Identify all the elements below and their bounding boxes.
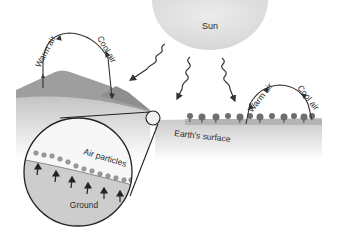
cool-air-left-label: Cool air	[95, 34, 118, 65]
right-landscape	[155, 118, 322, 160]
warm-air-left-label: Warm air	[33, 34, 58, 69]
ground-label: Ground	[70, 200, 99, 210]
sun-label: Sun	[202, 21, 218, 31]
warm-air-right-label: Warm air	[246, 81, 275, 114]
sun-rays	[132, 44, 234, 99]
cool-air-right-label: Cool air	[295, 83, 321, 112]
convection-diagram: Sun Warm air Cool air Earth's surface	[0, 0, 337, 235]
sun-ray-left	[132, 44, 165, 79]
sun: Sun	[152, 0, 268, 50]
sun-ray-right	[222, 58, 234, 99]
sun-ray-middle	[178, 57, 190, 97]
